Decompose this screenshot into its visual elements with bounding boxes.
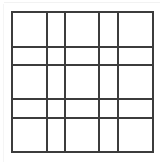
grid-diagram-canvas: [0, 0, 165, 166]
grid-lines: [0, 0, 165, 166]
